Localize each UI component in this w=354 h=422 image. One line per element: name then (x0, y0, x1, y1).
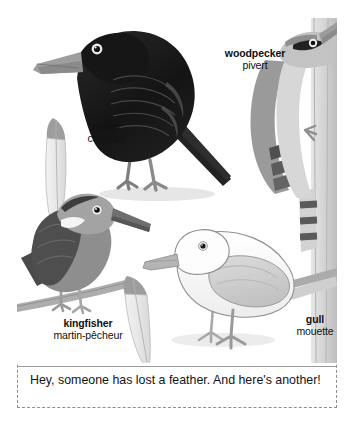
caption-text: Hey, someone has lost a feather. And her… (30, 373, 330, 388)
label-gull-fr: mouette (281, 326, 349, 338)
caption-divider (18, 366, 336, 367)
label-raven-en: raven (60, 121, 152, 133)
label-woodpecker-en: woodpecker (200, 48, 310, 60)
label-woodpecker: woodpecker pivert (200, 48, 310, 72)
label-raven: raven corbeau (60, 121, 152, 145)
label-gull: gull mouette (281, 314, 349, 338)
label-raven-fr: corbeau (60, 133, 152, 145)
label-kingfisher: kingfisher martin-pêcheur (32, 318, 144, 342)
label-kingfisher-fr: martin-pêcheur (32, 330, 144, 342)
label-gull-en: gull (281, 314, 349, 326)
label-woodpecker-fr: pivert (200, 60, 310, 72)
bird-illustration-page: raven corbeau woodpecker pivert kingfish… (0, 0, 354, 422)
label-kingfisher-en: kingfisher (32, 318, 144, 330)
